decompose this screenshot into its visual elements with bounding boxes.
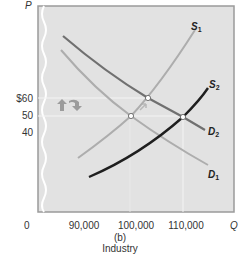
y-tick-50: 50: [22, 110, 34, 121]
chart-caption: Industry: [0, 243, 240, 254]
x-tick-100000: 100,000: [118, 220, 155, 231]
plot-area: [38, 6, 234, 212]
y-tick-40: 40: [22, 127, 34, 138]
x-tick-90000: 90,000: [69, 220, 100, 231]
equilibrium-point-s1-d1: [128, 113, 133, 118]
x-axis-label: Q: [230, 220, 238, 231]
origin-label: 0: [24, 220, 30, 231]
panel-label: (b): [0, 232, 240, 243]
equilibrium-point-s1-d2: [145, 95, 150, 100]
industry-supply-demand-chart: S1 S2 D2 D1 P Q 0 $60 50 40 90,000 100,0…: [0, 0, 240, 255]
y-tick-60: $60: [16, 93, 33, 104]
equilibrium-point-s2-d2: [180, 114, 185, 119]
x-tick-110000: 110,000: [168, 220, 204, 231]
y-axis-label: P: [25, 0, 32, 11]
